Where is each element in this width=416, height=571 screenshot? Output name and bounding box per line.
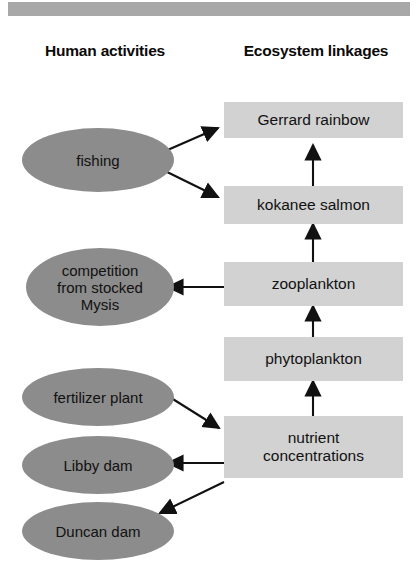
node-fertilizer-plant-label: fertilizer plant bbox=[49, 389, 146, 406]
node-competition-mysis-line2: from stocked bbox=[53, 279, 147, 296]
node-phytoplankton[interactable]: phytoplankton bbox=[224, 337, 403, 381]
node-libby-dam-label: Libby dam bbox=[59, 457, 136, 474]
node-nutrient-concentrations-line2: concentrations bbox=[259, 447, 368, 465]
node-duncan-dam-label: Duncan dam bbox=[51, 523, 144, 540]
node-competition-mysis-line3: Mysis bbox=[77, 296, 123, 313]
node-fishing-label: fishing bbox=[72, 152, 123, 169]
arrow-nutrients-to-duncan bbox=[160, 482, 224, 513]
node-zooplankton[interactable]: zooplankton bbox=[224, 262, 403, 306]
arrow-fertilizer-to-nutrients bbox=[168, 396, 219, 428]
node-competition-mysis[interactable]: competition from stocked Mysis bbox=[26, 248, 174, 326]
node-fertilizer-plant[interactable]: fertilizer plant bbox=[22, 368, 174, 426]
node-phytoplankton-label: phytoplankton bbox=[261, 350, 366, 368]
node-fishing[interactable]: fishing bbox=[22, 128, 174, 192]
node-kokanee-salmon[interactable]: kokanee salmon bbox=[224, 186, 403, 224]
arrow-fishing-to-kokanee bbox=[163, 170, 218, 197]
node-nutrient-concentrations-line1: nutrient bbox=[284, 429, 344, 447]
node-competition-mysis-line1: competition bbox=[58, 262, 143, 279]
node-gerrard-rainbow[interactable]: Gerrard rainbow bbox=[224, 102, 403, 138]
node-zooplankton-label: zooplankton bbox=[268, 275, 360, 293]
arrow-fishing-to-gerrard bbox=[163, 128, 218, 152]
node-duncan-dam[interactable]: Duncan dam bbox=[22, 502, 174, 560]
ecosystem-linkage-diagram: Human activities Ecosystem linkages bbox=[0, 0, 416, 571]
node-kokanee-salmon-label: kokanee salmon bbox=[253, 196, 374, 214]
node-gerrard-rainbow-label: Gerrard rainbow bbox=[254, 111, 374, 129]
node-nutrient-concentrations[interactable]: nutrient concentrations bbox=[224, 416, 403, 478]
node-libby-dam[interactable]: Libby dam bbox=[22, 436, 174, 494]
